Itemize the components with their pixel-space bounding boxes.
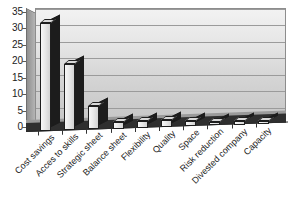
x-axis: Cost savingsAcces to skillsStrategic she… [0,0,300,206]
bar-chart: 05101520253035 Cost savingsAcces to skil… [0,0,300,206]
x-axis-category-label: Quality [151,129,177,155]
